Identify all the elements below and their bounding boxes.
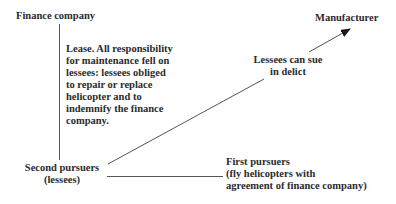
finance-company-node: Finance company bbox=[16, 10, 95, 22]
lease-description: Lease. All responsibility for maintenanc… bbox=[66, 43, 173, 127]
lease-line: Lease. All responsibility bbox=[66, 43, 173, 55]
legal-relationship-diagram: Finance company Manufacturer Lease. All … bbox=[0, 0, 396, 204]
second-pursuers-title: Second pursuers bbox=[16, 162, 108, 174]
delict-connector-arrow bbox=[309, 29, 350, 52]
delict-line: Lessees can sue bbox=[248, 54, 328, 66]
lease-line: helicopter and to bbox=[66, 91, 173, 103]
lease-line: indemnify the finance bbox=[66, 103, 173, 115]
first-pursuers-title: First pursuers bbox=[226, 156, 367, 168]
second-pursuers-subtitle: (lessees) bbox=[16, 174, 108, 186]
second-pursuers-node: Second pursuers (lessees) bbox=[16, 162, 108, 186]
first-pursuers-detail: (fly helicopters with bbox=[226, 168, 367, 180]
lease-line: company. bbox=[66, 115, 173, 127]
first-pursuers-node: First pursuers (fly helicopters with agr… bbox=[226, 156, 367, 192]
manufacturer-node: Manufacturer bbox=[315, 12, 378, 24]
delict-label: Lessees can sue in delict bbox=[248, 54, 328, 78]
first-pursuers-detail: agreement of finance company) bbox=[226, 180, 367, 192]
delict-line: in delict bbox=[248, 66, 328, 78]
lease-line: lessees: lessees obliged bbox=[66, 67, 173, 79]
lease-line: for maintenance fell on bbox=[66, 55, 173, 67]
lease-line: to repair or replace bbox=[66, 79, 173, 91]
